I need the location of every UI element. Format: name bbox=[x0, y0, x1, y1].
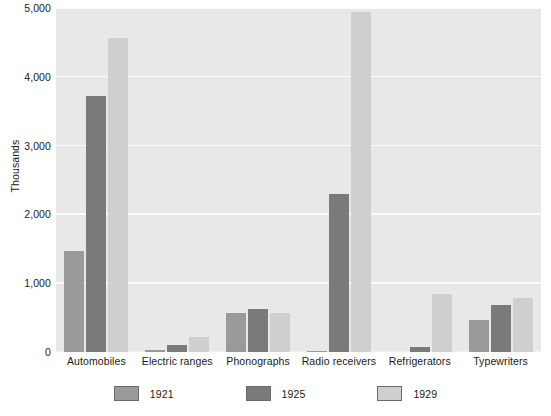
bar[interactable] bbox=[189, 337, 209, 352]
x-tick-label: Typewriters bbox=[473, 355, 528, 367]
legend: 192119251929 bbox=[0, 386, 551, 401]
y-tick-label: 0 bbox=[5, 346, 51, 358]
legend-label: 1925 bbox=[282, 388, 306, 400]
bar-group bbox=[218, 8, 299, 352]
bar-group bbox=[137, 8, 218, 352]
bar[interactable] bbox=[432, 294, 452, 352]
bar[interactable] bbox=[108, 38, 128, 352]
y-tick-label: 5,000 bbox=[5, 2, 51, 14]
bar[interactable] bbox=[491, 305, 511, 352]
bar[interactable] bbox=[351, 12, 371, 352]
bar[interactable] bbox=[410, 347, 430, 352]
legend-item[interactable]: 1925 bbox=[246, 386, 306, 401]
bar[interactable] bbox=[329, 194, 349, 352]
bar[interactable] bbox=[270, 313, 290, 352]
y-axis-title: Thousands bbox=[9, 111, 21, 221]
plot-area bbox=[56, 8, 541, 352]
legend-item[interactable]: 1921 bbox=[114, 386, 174, 401]
x-tick-label: Automobiles bbox=[67, 355, 126, 367]
legend-item[interactable]: 1929 bbox=[377, 386, 437, 401]
bar-group bbox=[460, 8, 541, 352]
bar-group bbox=[56, 8, 137, 352]
bar[interactable] bbox=[226, 313, 246, 352]
x-tick-label: Refrigerators bbox=[389, 355, 451, 367]
x-tick-label: Phonographs bbox=[226, 355, 290, 367]
bar[interactable] bbox=[513, 298, 533, 352]
bar[interactable] bbox=[64, 251, 84, 352]
bar[interactable] bbox=[145, 350, 165, 352]
bar-chart: 01,0002,0003,0004,0005,000 Thousands Aut… bbox=[0, 0, 551, 416]
bar[interactable] bbox=[469, 320, 489, 352]
y-axis: 01,0002,0003,0004,0005,000 bbox=[0, 0, 51, 416]
legend-label: 1921 bbox=[150, 388, 174, 400]
bar-group bbox=[299, 8, 380, 352]
bar[interactable] bbox=[307, 351, 327, 352]
legend-swatch bbox=[377, 386, 402, 401]
bars-layer bbox=[56, 8, 541, 352]
legend-swatch bbox=[246, 386, 271, 401]
x-tick-label: Electric ranges bbox=[142, 355, 213, 367]
legend-label: 1929 bbox=[413, 388, 437, 400]
bar[interactable] bbox=[248, 309, 268, 352]
bar[interactable] bbox=[86, 96, 106, 352]
x-tick-label: Radio receivers bbox=[302, 355, 376, 367]
legend-swatch bbox=[114, 386, 139, 401]
bar-group bbox=[379, 8, 460, 352]
y-tick-label: 4,000 bbox=[5, 71, 51, 83]
y-tick-label: 1,000 bbox=[5, 277, 51, 289]
x-axis: AutomobilesElectric rangesPhonographsRad… bbox=[56, 355, 541, 373]
bar[interactable] bbox=[167, 345, 187, 352]
